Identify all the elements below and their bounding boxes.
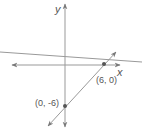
point-6-0 bbox=[102, 62, 106, 66]
point-0-neg6-label: (0, -6) bbox=[35, 98, 59, 108]
coordinate-diagram: y x (6, 0) (0, -6) bbox=[0, 0, 142, 132]
y-axis-label: y bbox=[54, 3, 62, 15]
shallow-line bbox=[0, 52, 142, 62]
diagonal-line bbox=[48, 52, 116, 126]
x-axis-label: x bbox=[116, 66, 123, 78]
point-6-0-label: (6, 0) bbox=[96, 75, 117, 85]
point-0-neg6 bbox=[63, 104, 67, 108]
